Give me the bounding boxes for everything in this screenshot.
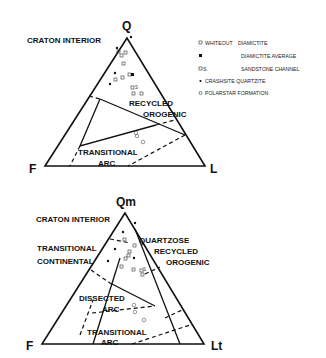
point-crashsite	[114, 248, 116, 250]
filled-square-icon	[199, 54, 202, 57]
point-whiteout	[128, 73, 131, 76]
vertex-label-f: F	[26, 339, 33, 353]
open-square-icon	[199, 67, 202, 70]
point-crashsite	[109, 83, 111, 85]
point-whiteout	[128, 250, 131, 253]
field-label-continental: CONTINENTAL	[37, 257, 94, 266]
legend-label: S	[203, 66, 207, 72]
qmflt-craton-boundary	[110, 239, 130, 243]
open-circle-icon	[199, 92, 202, 95]
point-crashsite	[116, 47, 118, 49]
point-sandstone	[132, 92, 135, 95]
point-crashsite	[114, 72, 116, 74]
field-label-arc: ARC	[98, 159, 116, 168]
point-sandstone	[140, 92, 143, 95]
field-label-craton-interior: CRATON INTERIOR	[36, 215, 110, 224]
legend-label: DIAMICTITE	[238, 40, 268, 46]
point-polarstar	[141, 140, 145, 144]
qfl-triangle-outline	[45, 38, 205, 166]
point-whiteout	[124, 257, 127, 260]
field-label-orogenic: OROGENIC	[143, 110, 187, 119]
field-label-dissected: DISSECTED	[79, 294, 125, 303]
point-crashsite	[134, 222, 136, 224]
qmflt-diagram: Qm F Lt CRATON INTERIOR TRANSITIONAL CON…	[26, 195, 222, 353]
point-polarstar	[132, 303, 136, 307]
point-crashsite	[122, 231, 124, 233]
legend-item-crashsite-quartzite: CRASHSITE QUARTZITE	[199, 78, 266, 84]
field-label-arc: ARC	[101, 338, 119, 347]
point-crashsite	[107, 260, 109, 262]
field-label-transitional: TRANSITIONAL	[37, 244, 97, 253]
field-label-orogenic: OROGENIC	[166, 258, 210, 267]
qfl-diagram: Q F L CRATON INTERIOR RECYCLED OROGENIC …	[27, 19, 217, 176]
qmflt-continental-dash	[91, 270, 110, 283]
qfl-data-points: S	[109, 36, 145, 144]
legend-item-polarstar-formation: POLARSTAR FORMATION	[199, 90, 268, 96]
open-square-icon	[199, 41, 202, 44]
legend-item-diamictite-average: DIAMICTITE AVERAGE	[199, 53, 297, 59]
field-label-transitional: TRANSITIONAL	[78, 148, 138, 157]
field-label-dissected-arc: ARC	[102, 305, 120, 314]
point-whiteout	[114, 78, 117, 81]
field-label-transitional-arc: TRANSITIONAL	[87, 328, 147, 337]
vertex-label-qm: Qm	[116, 195, 136, 209]
vertex-label-q: Q	[122, 19, 131, 33]
legend-label: POLARSTAR FORMATION	[205, 90, 268, 96]
point-whiteout	[124, 51, 127, 54]
legend: WHITEOUT DIAMICTITE DIAMICTITE AVERAGE S…	[199, 40, 300, 96]
point-sandstone-s: S	[135, 85, 138, 90]
point-whiteout	[133, 244, 136, 247]
point-sandstone	[131, 86, 134, 89]
legend-label: DIAMICTITE AVERAGE	[241, 53, 297, 59]
point-whiteout	[120, 265, 123, 268]
point-polarstar	[133, 310, 137, 314]
field-label-recycled: RECYCLED	[129, 99, 173, 108]
point-diamictite-average	[131, 73, 134, 76]
legend-label: CRASHSITE QUARTZITE	[205, 78, 266, 84]
legend-item-sandstone-channel: S SANDSTONE CHANNEL	[199, 66, 300, 72]
point-polarstar	[142, 318, 146, 322]
field-label-craton-interior: CRATON INTERIOR	[27, 36, 101, 45]
legend-label: SANDSTONE CHANNEL	[241, 66, 300, 72]
point-crashsite	[130, 36, 132, 38]
point-crashsite	[133, 257, 135, 259]
point-whiteout	[122, 62, 125, 65]
vertex-label-f: F	[29, 162, 36, 176]
point-whiteout	[127, 254, 130, 257]
point-whiteout	[123, 238, 126, 241]
point-sandstone	[141, 273, 144, 276]
qfl-mixed-boundary	[156, 120, 175, 125]
point-whiteout	[132, 268, 135, 271]
legend-item-whiteout: WHITEOUT DIAMICTITE	[199, 40, 268, 46]
vertex-label-lt: Lt	[211, 339, 222, 353]
provenance-ternary-diagrams: Q F L CRATON INTERIOR RECYCLED OROGENIC …	[0, 0, 326, 358]
vertex-label-l: L	[210, 162, 217, 176]
field-label-recycled: RECYCLED	[154, 247, 198, 256]
point-sandstone-s: S	[143, 267, 146, 272]
qfl-craton-boundary	[89, 96, 100, 99]
point-whiteout	[120, 54, 123, 57]
legend-label: WHITEOUT	[205, 40, 233, 46]
filled-dot-icon	[199, 80, 201, 82]
point-whiteout	[121, 76, 124, 79]
field-label-quartzose: QUARTZOSE	[139, 236, 190, 245]
